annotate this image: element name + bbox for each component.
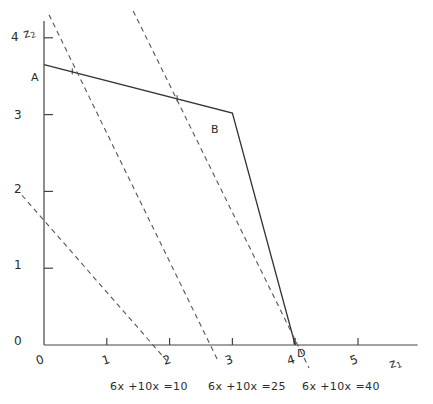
equation-label-10: 6x +10x =10 <box>110 381 188 392</box>
plot-svg <box>0 0 433 404</box>
equation-label-25: 6x +10x =25 <box>208 381 286 392</box>
figure-canvas: 0 1 2 3 4 0 1 2 3 4 5 z1 z2 A B D 6x +10… <box>0 0 433 404</box>
y-tick-label-4: 4 <box>11 31 19 43</box>
y-tick-label-1: 1 <box>14 259 22 271</box>
y-tick-label-3: 3 <box>14 109 22 121</box>
vertex-label-b: B <box>211 124 219 135</box>
equation-label-40: 6x +10x =40 <box>302 381 380 392</box>
y-tick-label-2: 2 <box>14 183 22 195</box>
series-objective-contour-40 <box>133 11 309 368</box>
vertex-label-a: A <box>31 72 39 83</box>
y-tick-label-0: 0 <box>14 335 22 347</box>
axes-group <box>44 21 418 345</box>
vertex-label-d: D <box>297 348 305 359</box>
curves-group <box>22 11 309 368</box>
series-objective-contour-25 <box>49 15 219 362</box>
series-feasible-region-boundary <box>44 65 295 345</box>
